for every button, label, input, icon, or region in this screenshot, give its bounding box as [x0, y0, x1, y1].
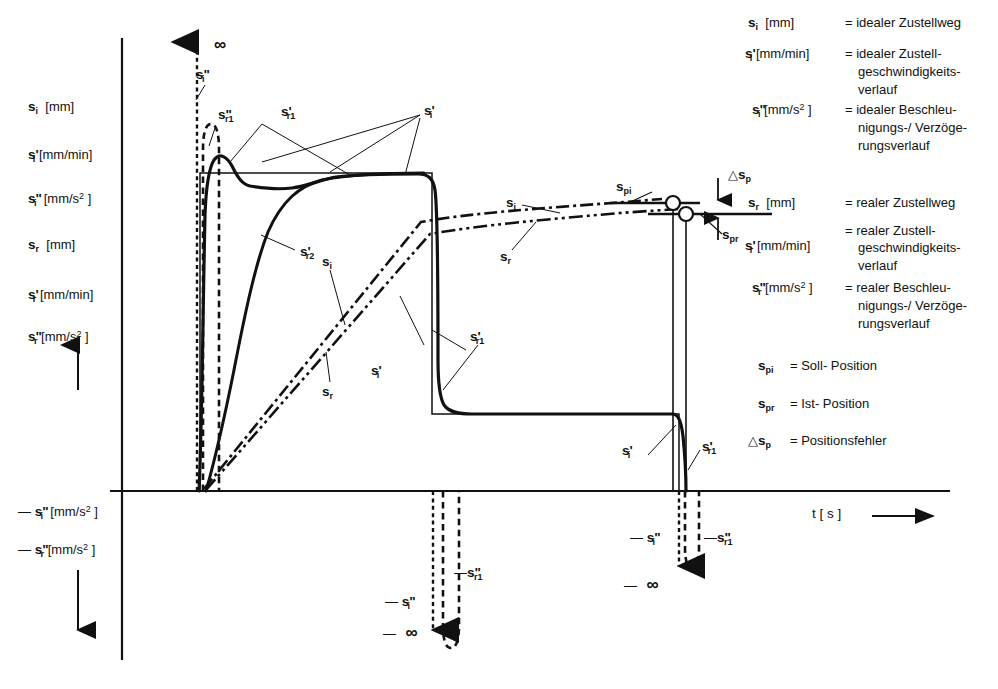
annotation-neg-infinity-left: — ∞	[383, 624, 418, 642]
y-axis-label-sr: sr [mm]	[28, 238, 75, 254]
legend-def-si-prime-l3: verlauf	[858, 83, 897, 97]
curve-sr1-prime	[199, 156, 686, 491]
annotation-neg-si-dd-left: — s"i	[385, 595, 410, 611]
annotation-sr1-prime-top: s'r1	[281, 105, 295, 121]
curve-sr2-prime	[206, 173, 424, 491]
legend-def-si-prime-l2: geschwindigkeits-	[858, 65, 961, 79]
leader-lines	[196, 85, 700, 470]
annotation-spr: spr	[722, 228, 739, 244]
legend-def-sr-prime-l3: verlauf	[858, 259, 897, 273]
curve-si-position	[204, 199, 662, 489]
sr1-prime-path	[199, 156, 686, 491]
leader-sr1-d-bottom	[688, 450, 700, 470]
annotation-si-prime-bottom: s'i	[622, 444, 630, 460]
spr-marker-dot	[679, 207, 693, 221]
y-axis-label-neg-si-dprime: — s"i [mm/s2 ]	[18, 505, 98, 521]
si-position-path	[204, 199, 662, 489]
legend-def-si-dprime-l1: = idealer Beschleu-	[845, 103, 957, 117]
leader-si-d-top-b	[330, 115, 420, 172]
legend-def-sr-prime-l2: geschwindigkeits-	[858, 241, 961, 255]
annotation-infinity-top: ∞	[214, 36, 226, 54]
legend-def-sr-dprime-l2: nigungs-/ Verzöge-	[858, 299, 967, 313]
legend-def-spr: = Ist- Position	[790, 397, 869, 411]
legend-sym-si-dprime: s"i [mm/s2 ]	[752, 103, 812, 119]
leader-sr-ramp	[326, 352, 330, 382]
y-axis-label-sr-dprime: s"r [mm/s2 ]	[28, 330, 89, 346]
annotation-neg-sr1-dd-right: —s"r1	[704, 531, 732, 547]
spi-marker-dot	[666, 196, 680, 210]
leader-sr1-d-mid	[443, 345, 478, 390]
leader-sr1-dd	[209, 128, 215, 146]
annotation-si-ramp: si	[322, 255, 332, 271]
y-axis-label-si-dprime: s"i [mm/s2 ]	[28, 192, 91, 208]
axis-group	[78, 38, 950, 660]
annotation-sr2-prime: s'r2	[300, 245, 314, 261]
sr1-dd-stop-hump-2	[685, 491, 699, 568]
y-axis-label-si-prime: s'i [mm/min]	[28, 148, 92, 164]
legend-def-sr: = realer Zustellweg	[845, 196, 955, 210]
annotation-neg-infinity-right: — ∞	[624, 576, 659, 594]
annotation-sr-right: sr	[500, 250, 511, 266]
y-axis-label-si: si [mm]	[28, 100, 74, 116]
leader-si-ramp	[330, 270, 345, 325]
legend-sym-sr: sr [mm]	[748, 196, 795, 212]
legend-def-delta-sp: = Positionsfehler	[790, 434, 886, 448]
leader-si-d-top-a	[262, 115, 420, 162]
legend-def-sr-dprime-l1: = realer Beschleu-	[845, 281, 951, 295]
annotation-si-prime-top: s'i	[424, 104, 432, 120]
annotation-sr1-prime-bottom: s'r1	[702, 440, 716, 456]
leader-si-d-bottom	[648, 425, 676, 455]
leader-si-d-mid-2	[400, 296, 424, 345]
legend-sym-si-prime: s'i [mm/min]	[745, 47, 809, 63]
legend-def-si-prime-l1: = idealer Zustell-	[845, 47, 941, 61]
leader-sr1-d-top-a	[230, 124, 262, 162]
legend-def-sr-prime-l1: = realer Zustell-	[845, 224, 936, 238]
sr1-dd-start-hump	[203, 124, 219, 491]
curve-sr-position	[206, 209, 678, 490]
sr-position-path	[206, 209, 678, 490]
legend-sym-si: si [mm]	[748, 16, 794, 32]
legend-sym-spr: spr	[758, 397, 775, 413]
annotation-delta-sp: △sp	[728, 168, 751, 184]
annotation-neg-sr1-dd-left: —s"r1	[454, 566, 482, 582]
legend-def-spi: = Soll- Position	[790, 359, 877, 373]
legend-def-si: = idealer Zustellweg	[845, 16, 961, 30]
annotation-neg-si-dd-right: — s"i	[630, 531, 655, 547]
annotation-si-right: si	[506, 196, 516, 212]
legend-sym-sr-prime: s'r [mm/min]	[745, 239, 810, 255]
leader-si-dd	[196, 85, 205, 100]
annotation-si-prime-mid: s'i	[371, 364, 379, 380]
annotation-sr1-double-prime: s"r1	[218, 108, 233, 124]
diagram-root: si [mm] s'i [mm/min] s"i [mm/s2 ] sr [mm…	[0, 0, 998, 689]
annotation-spi: spi	[616, 180, 632, 196]
x-axis-label: t [ s ]	[812, 507, 841, 521]
y-axis-label-neg-sr-dprime: — s"r [mm/s2 ]	[18, 543, 95, 559]
y-axis-label-sr-prime: s'r [mm/min]	[28, 288, 93, 304]
annotation-si-double-prime: s"i	[196, 68, 204, 84]
legend-def-si-dprime-l3: rungsverlauf	[858, 139, 930, 153]
annotation-sr1-prime-mid: s'r1	[470, 330, 484, 346]
leader-sr2-d	[261, 235, 295, 250]
annotation-sr-ramp: sr	[322, 385, 333, 401]
leader-sr-right	[512, 222, 536, 250]
legend-sym-delta-sp: △sp	[748, 434, 771, 450]
leader-si-d-top-c	[405, 118, 420, 175]
sr2-prime-path	[206, 173, 424, 491]
legend-sym-spi: spi	[758, 359, 774, 375]
legend-def-sr-dprime-l3: rungsverlauf	[858, 317, 930, 331]
legend-sym-sr-dprime: s"r [mm/s2 ]	[752, 281, 813, 297]
legend-def-si-dprime-l2: nigungs-/ Verzöge-	[858, 121, 967, 135]
